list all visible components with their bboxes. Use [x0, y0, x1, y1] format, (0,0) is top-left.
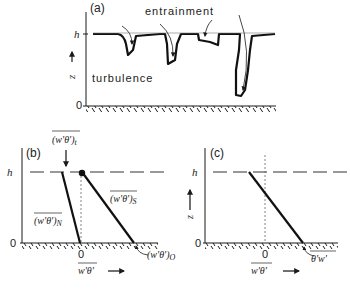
h-label: h: [7, 166, 13, 178]
panel-a: (a) h 0 z entrainment turbulence: [65, 1, 276, 112]
x-zero-label: 0: [78, 248, 84, 260]
x-axis-label: w'θ': [78, 265, 95, 276]
flux-profile-s: [82, 172, 134, 243]
panel-a-label: (a): [90, 1, 105, 15]
h-label: h: [74, 28, 80, 40]
flux-n-label: (w'θ')N: [34, 215, 63, 228]
flux-surface-label: (w'θ')O: [147, 249, 176, 262]
panel-c-label: (c): [210, 146, 224, 160]
ground-hatch: [205, 243, 338, 249]
flux-surface-label: θ'w': [311, 253, 328, 264]
flux-profile-n: [62, 172, 80, 243]
inversion-interface: [93, 34, 275, 96]
flux-s-label: (w'θ')S: [110, 193, 137, 206]
h-label: h: [192, 166, 198, 178]
panel-b: (b) h 0 0 (w'θ')t (w'θ')N (w'θ')S (w'θ')…: [7, 131, 176, 276]
entrainment-arrow-icon: [239, 15, 247, 90]
z-label: z: [65, 74, 77, 80]
ground-hatch: [22, 243, 158, 249]
x-zero-label: 0: [262, 248, 268, 260]
zero-label: 0: [195, 237, 201, 249]
z-label: z: [184, 215, 195, 220]
turbulence-label: turbulence: [92, 72, 153, 84]
ground-hatch: [86, 106, 276, 112]
zero-label: 0: [76, 99, 82, 111]
entrainment-arrow-icon: [205, 20, 212, 36]
panel-b-label: (b): [26, 146, 41, 160]
flux-profile: [249, 172, 303, 243]
entrainment-arrow-icon: [122, 26, 132, 44]
figure: (a) h 0 z entrainment turbulence (b) h 0…: [0, 0, 350, 289]
flux-top-label: (w'θ')t: [52, 134, 78, 147]
entrainment-label: entrainment: [145, 5, 214, 17]
zero-label: 0: [10, 237, 16, 249]
panel-c: (c) h 0 z 0 θ'w' w'θ': [184, 146, 350, 276]
x-axis-label: w'θ': [251, 265, 268, 276]
